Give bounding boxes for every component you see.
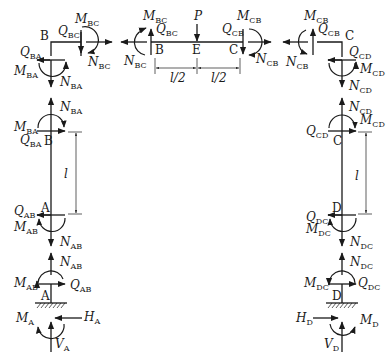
point-label-b-beam: B (155, 43, 164, 57)
point-label-b: B (40, 29, 49, 43)
point-label-d-col: D (332, 201, 342, 215)
label-m-ba: MBA (13, 64, 38, 80)
label-dim-half-1: l/2 (170, 71, 186, 85)
m-dc-arc (330, 218, 356, 231)
label-q-ab: QAB (14, 204, 36, 220)
label-n-ab: NAB (59, 235, 82, 251)
hatch-a (37, 303, 65, 308)
label-q-cd-2: QCD (306, 124, 328, 140)
label-n-bc-2: NBC (123, 54, 147, 70)
point-label-c-col: C (333, 134, 342, 148)
joint-b-member (51, 42, 81, 56)
label-v-a: VA (55, 337, 70, 353)
label-p: P (193, 9, 203, 23)
point-label-c-beam: C (229, 43, 238, 57)
label-m-a: MA (15, 311, 34, 327)
point-label-a: A (40, 289, 50, 303)
label-q-dc-2: QDC (358, 276, 380, 292)
label-m-bc: MBC (74, 12, 99, 28)
label-dim-right-col: l (355, 169, 359, 183)
frame-free-body-diagram: B MBC QBC NBC QBA MBA NBA B E C MBC QBC … (0, 0, 388, 357)
column-ab (37, 98, 82, 246)
point-label-d: D (332, 289, 342, 303)
label-h-a: HA (83, 310, 100, 326)
point-label-e: E (192, 43, 201, 57)
label-n-ba: NBA (59, 75, 82, 91)
label-v-d: VD (324, 337, 339, 353)
label-m-cd: MCD (359, 62, 385, 78)
hatch-d (328, 303, 356, 308)
label-n-cb-2: NCB (285, 55, 309, 71)
label-n-ba-2: NBA (59, 100, 82, 116)
label-q-ba: QBA (20, 45, 42, 61)
label-n-dc: NDC (349, 235, 373, 251)
label-q-cb: QCB (222, 22, 244, 38)
label-n-cb: NCB (255, 52, 279, 68)
point-label-b-col: B (44, 134, 53, 148)
label-m-cd-2: MCD (359, 113, 385, 129)
label-dim-left-col: l (64, 167, 68, 181)
joint-c-member (317, 42, 342, 57)
label-m-ab-2: MAB (13, 276, 38, 292)
label-m-ab: MAB (13, 220, 38, 236)
label-q-cd: QCD (349, 45, 371, 61)
m-bc-arc (82, 27, 98, 53)
label-n-bc: NBC (87, 55, 111, 71)
label-n-cd: NCD (348, 79, 372, 95)
label-q-ab-2: QAB (70, 278, 92, 294)
label-dim-half-2: l/2 (211, 71, 227, 85)
label-h-d: HD (295, 311, 313, 327)
label-q-cb-2: QCB (318, 22, 340, 38)
label-n-ab-2: NAB (59, 255, 82, 271)
label-n-dc-2: NDC (349, 255, 373, 271)
label-q-bc: QBC (58, 24, 80, 40)
m-ab-arc (39, 218, 65, 232)
point-label-a-col: A (40, 201, 50, 215)
label-m-dc-2: MDC (303, 276, 329, 292)
point-label-c: C (345, 29, 354, 43)
label-m-cb: MCB (236, 9, 261, 25)
label-m-d: MD (359, 313, 379, 329)
